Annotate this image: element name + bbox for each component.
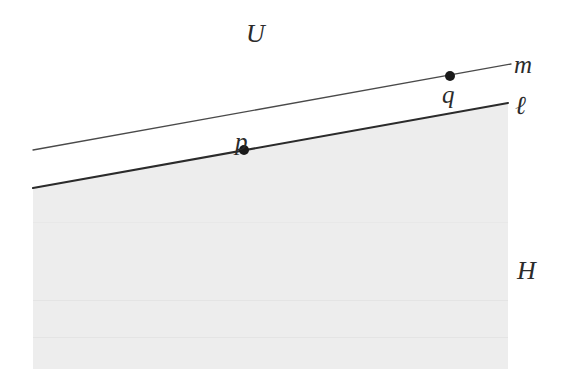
geometry-figure: U m ℓ p q H — [0, 0, 566, 382]
figure-canvas — [0, 0, 566, 382]
label-half-plane-H: H — [517, 258, 536, 284]
label-ambient-space-U: U — [246, 21, 265, 47]
point-q-marker — [445, 71, 455, 81]
label-point-p: p — [235, 129, 248, 154]
half-plane-region — [33, 103, 508, 369]
label-line-ell: ℓ — [515, 93, 526, 119]
label-line-m: m — [514, 52, 532, 77]
label-point-q: q — [442, 82, 455, 107]
